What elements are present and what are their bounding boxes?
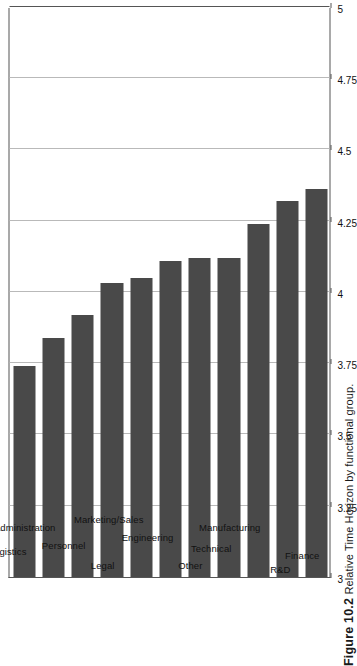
figure-number: Figure 10.2 — [341, 598, 355, 666]
bar — [305, 189, 327, 577]
category-label: Technical — [191, 543, 232, 554]
category-label: Personnel — [41, 540, 85, 551]
bar-chart: 33.253.53.7544.254.54.755 LogisticsAdmin… — [0, 0, 322, 666]
plot-area — [8, 8, 330, 578]
bar-row — [305, 8, 327, 577]
bar-row — [100, 8, 122, 577]
category-label: Logistics — [0, 546, 26, 557]
figure-stage: 33.253.53.7544.254.54.755 LogisticsAdmin… — [0, 0, 357, 666]
axis-tick — [330, 217, 331, 222]
bar-series — [9, 8, 329, 577]
category-label: R&D — [269, 564, 289, 575]
figure-caption-text: Relative Time Horizon by functional grou… — [342, 384, 354, 595]
bar-row — [247, 8, 269, 577]
bar-row — [159, 8, 181, 577]
category-label: Engineering — [121, 532, 173, 543]
bar-row — [276, 8, 298, 577]
gridline — [9, 6, 329, 7]
axis-tick — [330, 359, 331, 364]
bar-row — [71, 8, 93, 577]
category-label: Legal — [90, 560, 114, 571]
axis-tick — [330, 502, 331, 507]
category-label: Other — [178, 560, 202, 571]
bar-row — [130, 8, 152, 577]
bar-row — [13, 8, 35, 577]
axis-tick — [330, 3, 331, 8]
bar-row — [188, 8, 210, 577]
figure-caption: Figure 10.2 Relative Time Horizon by fun… — [342, 6, 355, 666]
category-label: Administration — [0, 522, 55, 533]
bar-row — [42, 8, 64, 577]
axis-tick — [330, 288, 331, 293]
bar — [100, 283, 122, 577]
axis-tick — [330, 431, 331, 436]
axis-tick — [330, 146, 331, 151]
category-label: Manufacturing — [199, 522, 261, 533]
bar-row — [217, 8, 239, 577]
axis-tick — [330, 74, 331, 79]
axis-tick — [330, 573, 331, 578]
bar — [71, 315, 93, 577]
category-label: Marketing/Sales — [74, 514, 144, 525]
bar — [159, 261, 181, 577]
category-label: Finance — [284, 550, 319, 561]
bar — [276, 201, 298, 577]
